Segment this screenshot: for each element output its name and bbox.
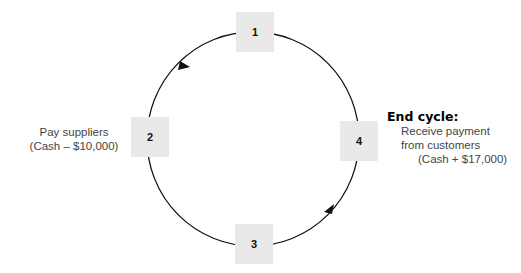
arrow-icon-upper-left xyxy=(178,61,190,70)
node-4: 4 xyxy=(340,121,378,161)
arrow-icon-lower-right xyxy=(324,204,334,214)
pay-suppliers-amount: (Cash – $10,000) xyxy=(24,139,124,153)
cycle-circle xyxy=(147,32,359,246)
node-3-label: 3 xyxy=(251,238,257,250)
node-1: 1 xyxy=(236,12,274,52)
end-cycle-line2: from customers xyxy=(387,138,507,152)
cash-cycle-diagram: 1 2 3 4 Pay suppliers (Cash – $10,000) E… xyxy=(0,0,521,273)
end-cycle-amount: (Cash + $17,000) xyxy=(387,152,507,166)
node-4-label: 4 xyxy=(356,135,362,147)
end-cycle-annotation: End cycle: Receive payment from customer… xyxy=(387,110,507,166)
end-cycle-title: End cycle: xyxy=(387,110,507,124)
node-1-label: 1 xyxy=(252,26,258,38)
node-3: 3 xyxy=(235,224,273,264)
end-cycle-line1: Receive payment xyxy=(387,124,507,138)
node-2-label: 2 xyxy=(147,131,153,143)
node-2: 2 xyxy=(131,117,169,157)
pay-suppliers-annotation: Pay suppliers (Cash – $10,000) xyxy=(24,125,124,153)
pay-suppliers-text: Pay suppliers xyxy=(24,125,124,139)
